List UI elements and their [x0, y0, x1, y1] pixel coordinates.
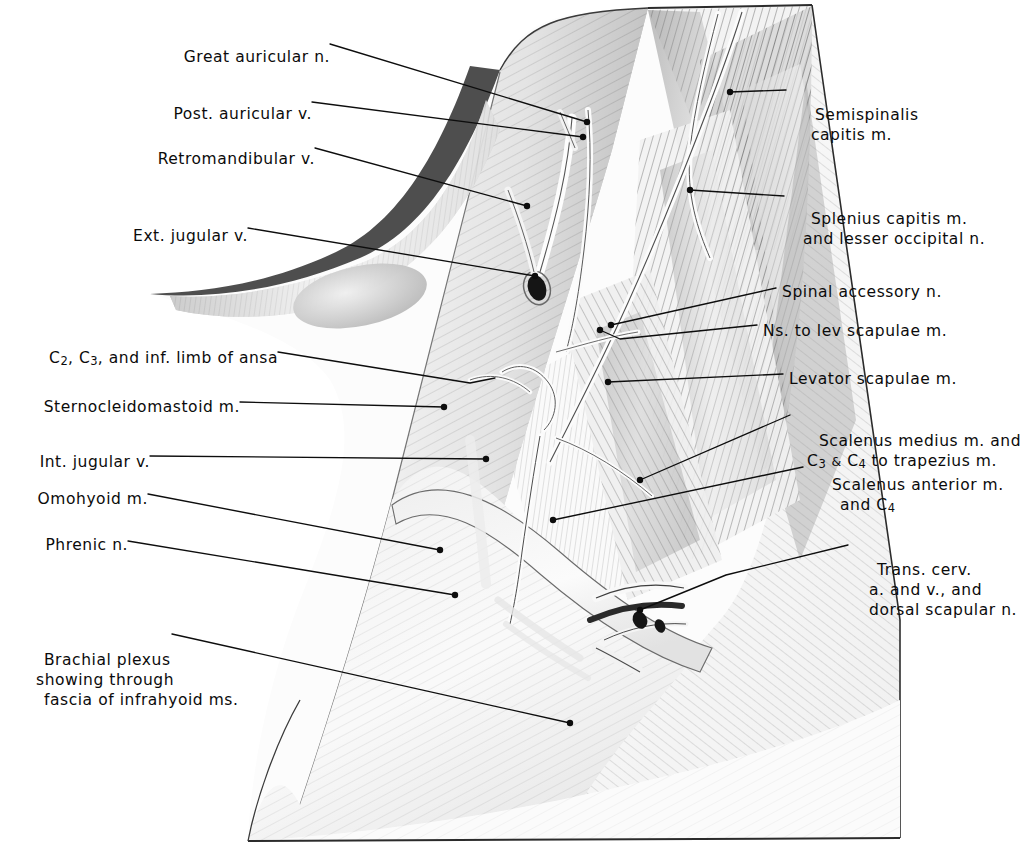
dot-retromandibular-v — [524, 203, 530, 209]
label-text-line1: Scalenus medius m. and — [819, 432, 1021, 450]
label-text-line2: capitis m. — [793, 125, 919, 145]
label-text: Ns. to lev scapulae m. — [763, 322, 947, 340]
dot-phrenic-n — [452, 592, 458, 598]
dot-great-auricular-n — [584, 119, 590, 125]
dot-semispinalis — [727, 89, 733, 95]
label-text-line2: a. and v., and — [855, 580, 1017, 600]
label-post-auricular-v: Post. auricular v. — [0, 104, 312, 124]
label-text-line1: Trans. cerv. — [877, 561, 972, 579]
dot-brachial-plexus — [567, 720, 573, 726]
label-spinal-accessory-n: Spinal accessory n. — [782, 282, 942, 302]
label-omohyoid-m: Omohyoid m. — [0, 489, 148, 509]
label-retromandibular-v: Retromandibular v. — [0, 149, 315, 169]
label-great-auricular-n: Great auricular n. — [0, 47, 330, 67]
label-text-line2: and C4 — [810, 495, 1004, 516]
label-text: Levator scapulae m. — [789, 370, 957, 388]
label-sternocleidomastoid-m: Sternocleidomastoid m. — [0, 397, 240, 417]
dot-trans-cerv — [637, 607, 643, 613]
label-text-line1: Splenius capitis m. — [811, 210, 968, 228]
c3-numeral: 3 — [90, 354, 98, 368]
label-text-line3: fascia of infrahyoid ms. — [22, 690, 322, 710]
dot-scalenus-medius — [637, 477, 643, 483]
label-brachial-plexus: Brachial plexusshowing throughfascia of … — [22, 630, 322, 751]
dot-spinal-accessory — [608, 322, 614, 328]
label-phrenic-n: Phrenic n. — [0, 535, 128, 555]
label-text-line1: Scalenus anterior m. — [832, 476, 1004, 494]
label-text: Omohyoid m. — [38, 490, 148, 508]
label-text-line3: dorsal scapular n. — [855, 600, 1017, 620]
label-text: Phrenic n. — [45, 536, 128, 554]
label-text: Int. jugular v. — [40, 453, 150, 471]
dot-ns-lev-scapulae — [597, 327, 603, 333]
dot-sternocleidomastoid-m — [441, 404, 447, 410]
dot-scalenus-anterior — [550, 517, 556, 523]
label-text-line1: Brachial plexus — [44, 651, 171, 669]
label-text-line2: showing through — [22, 670, 322, 690]
label-splenius-capitis-m: Splenius capitis m.and lesser occipital … — [789, 189, 985, 290]
dot-omohyoid-m — [437, 547, 443, 553]
label-text: Post. auricular v. — [173, 105, 312, 123]
label-text: Ext. jugular v. — [133, 227, 248, 245]
label-text: Retromandibular v. — [158, 150, 315, 168]
label-text: Great auricular n. — [184, 48, 330, 66]
label-text: Sternocleidomastoid m. — [44, 398, 240, 416]
dot-levator-scapulae — [605, 379, 611, 385]
anatomy-plate: Great auricular n. Post. auricular v. Re… — [0, 0, 1032, 853]
label-trans-cerv-a-v: Trans. cerv.a. and v., anddorsal scapula… — [855, 540, 1017, 661]
label-text: Spinal accessory n. — [782, 283, 942, 301]
label-c2-c3-inf-limb-ansa: C2, C3, and inf. limb of ansa — [0, 348, 278, 369]
dot-ext-jugular-v — [532, 273, 538, 279]
label-ext-jugular-v: Ext. jugular v. — [0, 226, 248, 246]
label-ns-to-lev-scapulae-m: Ns. to lev scapulae m. — [763, 321, 947, 341]
c4-numeral: 4 — [888, 501, 896, 515]
label-text-line1: Semispinalis — [815, 106, 919, 124]
label-semispinalis-capitis-m: Semispinaliscapitis m. — [793, 85, 919, 186]
c2-numeral: 2 — [60, 354, 68, 368]
dot-int-jugular-v — [483, 456, 489, 462]
dot-post-auricular-v — [580, 134, 586, 140]
label-int-jugular-v: Int. jugular v. — [0, 452, 150, 472]
dot-splenius-capitis — [687, 187, 693, 193]
label-levator-scapulae-m: Levator scapulae m. — [789, 369, 957, 389]
label-text-line2: and lesser occipital n. — [789, 229, 985, 249]
